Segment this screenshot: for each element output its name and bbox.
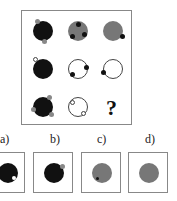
gray-circle <box>92 163 112 183</box>
cell-r1c3 <box>103 21 125 43</box>
black-dot <box>120 34 125 39</box>
gray-circle <box>139 163 159 183</box>
gray-dot <box>60 164 65 169</box>
white-dot <box>12 176 16 180</box>
gray-dot <box>49 112 54 117</box>
gray-dot <box>35 19 40 24</box>
gray-dot <box>31 107 36 112</box>
option-d[interactable] <box>128 152 168 193</box>
white-dot <box>33 57 38 62</box>
cell-r3c1 <box>33 97 55 119</box>
cell-r1c1 <box>33 21 55 43</box>
gray-dot <box>42 39 47 44</box>
cell-r1c2 <box>68 21 90 43</box>
cell-r2c3 <box>103 59 125 81</box>
option-d-label: d) <box>145 132 155 147</box>
black-dot <box>76 22 81 27</box>
black-dot <box>70 72 75 77</box>
option-b[interactable] <box>33 152 73 193</box>
cell-r2c2 <box>68 59 90 81</box>
black-dot <box>96 177 99 180</box>
option-a[interactable] <box>0 152 25 193</box>
cell-r2c1 <box>33 59 55 81</box>
white-circle <box>103 59 123 79</box>
option-a-label: a) <box>0 132 9 147</box>
white-dot <box>81 111 86 116</box>
black-circle <box>0 163 18 183</box>
black-dot <box>82 32 87 37</box>
black-dot <box>101 70 106 75</box>
option-c[interactable] <box>81 152 121 193</box>
white-dot <box>70 100 75 105</box>
puzzle-matrix: ? <box>21 10 132 125</box>
option-b-label: b) <box>50 132 60 147</box>
black-circle <box>33 59 53 79</box>
cell-r3c2 <box>68 97 90 119</box>
black-dot <box>70 34 75 39</box>
black-dot <box>84 65 89 70</box>
gray-dot <box>47 95 52 100</box>
cell-r3c3-missing: ? <box>106 97 128 119</box>
black-circle <box>33 21 53 41</box>
question-mark: ? <box>106 97 117 119</box>
option-c-label: c) <box>97 132 106 147</box>
